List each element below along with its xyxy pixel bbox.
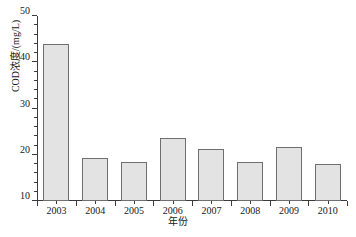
y-tick-minor	[34, 52, 37, 53]
bar	[43, 44, 69, 201]
x-tick-label: 2009	[279, 205, 299, 216]
x-tick-minor	[211, 201, 212, 204]
y-tick-label: 10	[20, 191, 30, 201]
y-tick-minor	[34, 135, 37, 136]
x-tick-minor	[56, 201, 57, 204]
y-tick-minor	[34, 126, 37, 127]
y-tick-minor	[34, 145, 37, 146]
x-tick-major	[347, 201, 348, 206]
x-axis-title: 年份	[0, 216, 356, 228]
y-tick-major	[32, 61, 37, 62]
x-tick-label: 2006	[163, 205, 183, 216]
y-tick-minor	[34, 34, 37, 35]
y-tick-major	[32, 154, 37, 155]
y-tick-minor	[34, 191, 37, 192]
y-tick-minor	[34, 182, 37, 183]
y-tick-minor	[34, 24, 37, 25]
y-tick-minor	[34, 117, 37, 118]
x-tick-minor	[250, 201, 251, 204]
x-tick-label: 2007	[201, 205, 221, 216]
plot-area: 1020304050 20032004200520062007200820092…	[37, 16, 347, 201]
bar-chart: COD浓度/(mg/L) 1020304050 2003200420052006…	[0, 0, 356, 237]
x-tick-major	[192, 201, 193, 206]
x-tick-major	[308, 201, 309, 206]
bar	[276, 147, 302, 201]
x-tick-label: 2004	[85, 205, 105, 216]
x-tick-major	[37, 201, 38, 206]
y-axis-line	[37, 16, 38, 201]
bar	[121, 162, 147, 201]
y-tick-label: 50	[20, 6, 30, 16]
x-tick-major	[115, 201, 116, 206]
x-tick-minor	[95, 201, 96, 204]
x-tick-minor	[134, 201, 135, 204]
bar	[160, 138, 186, 201]
y-tick-minor	[34, 172, 37, 173]
x-tick-major	[153, 201, 154, 206]
y-tick-minor	[34, 80, 37, 81]
y-tick-major	[32, 108, 37, 109]
y-tick-minor	[34, 98, 37, 99]
x-tick-label: 2003	[46, 205, 66, 216]
x-tick-minor	[173, 201, 174, 204]
x-tick-label: 2008	[240, 205, 260, 216]
x-tick-minor	[289, 201, 290, 204]
x-tick-major	[270, 201, 271, 206]
bar	[82, 158, 108, 201]
y-tick-major	[32, 15, 37, 16]
x-tick-minor	[328, 201, 329, 204]
y-tick-label: 30	[20, 99, 30, 109]
y-tick-minor	[34, 71, 37, 72]
y-tick-minor	[34, 89, 37, 90]
bar	[198, 149, 224, 201]
x-tick-label: 2010	[318, 205, 338, 216]
bar	[315, 164, 341, 201]
x-tick-major	[231, 201, 232, 206]
x-tick-major	[76, 201, 77, 206]
y-tick-minor	[34, 163, 37, 164]
bar	[237, 162, 263, 201]
y-tick-minor	[34, 43, 37, 44]
y-tick-label: 20	[20, 145, 30, 155]
y-tick-label: 40	[20, 52, 30, 62]
x-tick-label: 2005	[124, 205, 144, 216]
